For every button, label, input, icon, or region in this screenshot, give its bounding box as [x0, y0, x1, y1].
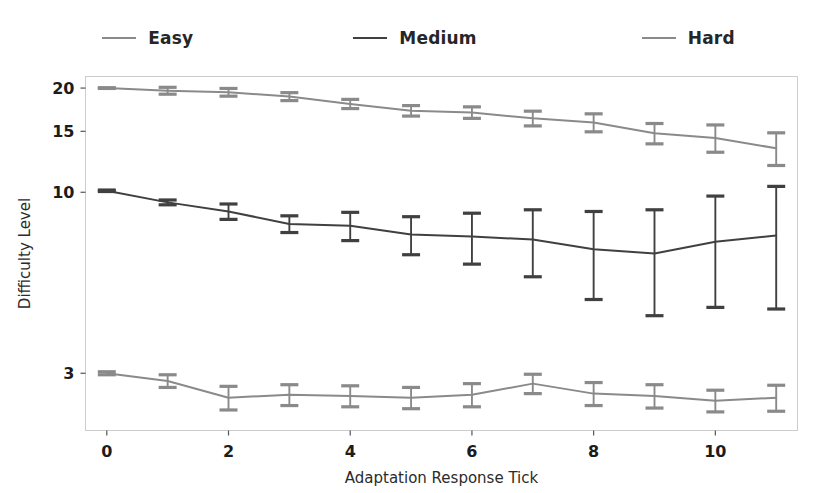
series-line-easy [107, 88, 776, 148]
y-tick-label: 3 [63, 364, 74, 383]
error-bar [220, 204, 238, 219]
series-line-hard [107, 373, 776, 400]
series-easy [98, 87, 785, 165]
error-bar [645, 210, 663, 316]
x-tick-label: 2 [223, 442, 234, 461]
y-axis-ticks: 2015103 [52, 79, 85, 383]
x-tick-label: 4 [345, 442, 356, 461]
error-bar [767, 186, 785, 309]
error-bar [98, 190, 116, 191]
error-bar [706, 196, 724, 307]
x-axis-title: Adaptation Response Tick [345, 469, 539, 487]
series-medium [98, 186, 785, 315]
error-bar [98, 88, 116, 89]
error-bar [767, 133, 785, 166]
x-tick-label: 8 [588, 442, 599, 461]
plot-svg: 2015103 0246810 Difficulty Level Adaptat… [0, 0, 837, 493]
x-tick-label: 0 [101, 442, 112, 461]
error-bar [585, 211, 603, 299]
x-tick-label: 6 [466, 442, 477, 461]
chart-figure: Easy Medium Hard 2015103 0246810 Difficu… [0, 0, 837, 493]
axes-border [86, 77, 798, 431]
y-tick-label: 15 [52, 122, 74, 141]
error-bar [463, 213, 481, 264]
x-tick-label: 10 [704, 442, 726, 461]
series-hard [98, 372, 785, 412]
error-bar [524, 210, 542, 277]
series-line-medium [107, 191, 776, 254]
x-axis-ticks: 0246810 [101, 431, 726, 461]
y-tick-label: 10 [52, 183, 74, 202]
error-bar [98, 372, 116, 375]
y-tick-label: 20 [52, 79, 74, 98]
y-axis-title: Difficulty Level [16, 198, 34, 309]
data-series-layer [98, 87, 785, 412]
plot-frame [86, 77, 798, 431]
